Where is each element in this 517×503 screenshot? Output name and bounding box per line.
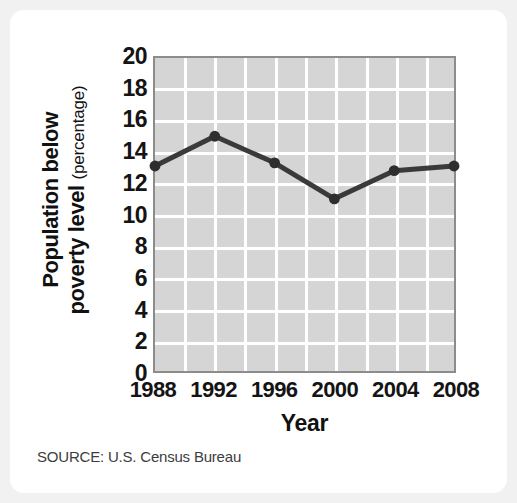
line-series: [155, 58, 454, 371]
y-axis-tick-label: 4: [101, 298, 147, 321]
y-axis-tick-label: 10: [101, 203, 147, 226]
source-note: SOURCE: U.S. Census Bureau: [37, 448, 241, 465]
x-axis-tick-labels: 198819921996200020042008: [153, 379, 456, 409]
y-axis-tick-label: 14: [101, 140, 147, 163]
y-axis-title-line2: poverty level (percentage): [64, 85, 90, 314]
y-axis-title-unit: (percentage): [69, 85, 88, 179]
y-axis-tick-labels: 02468101214161820: [95, 56, 147, 373]
x-axis-title: Year: [153, 410, 456, 437]
y-axis-tick-label: 16: [101, 108, 147, 131]
data-point-marker: [449, 161, 460, 172]
y-axis-tick-label: 20: [101, 45, 147, 68]
y-axis-tick-label: 12: [101, 171, 147, 194]
data-point-marker: [269, 157, 280, 168]
data-point-marker: [329, 193, 340, 204]
series-line: [155, 136, 454, 199]
data-point-marker: [150, 161, 161, 172]
plot-area: [153, 56, 456, 373]
x-axis-tick-label: 2008: [419, 379, 493, 401]
y-axis-tick-label: 8: [101, 235, 147, 258]
y-axis-tick-label: 2: [101, 330, 147, 353]
y-axis-title: Population below poverty level (percenta…: [34, 50, 94, 350]
figure-card: Population below poverty level (percenta…: [10, 10, 507, 493]
data-point-marker: [389, 165, 400, 176]
y-axis-title-line1: Population below: [38, 112, 64, 288]
y-axis-tick-label: 18: [101, 76, 147, 99]
data-point-marker: [209, 131, 220, 142]
y-axis-title-line2-text: poverty level: [64, 185, 89, 314]
y-axis-tick-label: 6: [101, 266, 147, 289]
